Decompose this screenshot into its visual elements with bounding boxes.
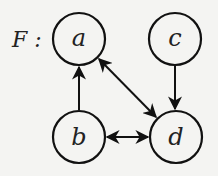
node-a: a bbox=[53, 13, 105, 65]
node-d-label: d bbox=[168, 123, 183, 151]
graph-label: F : bbox=[11, 27, 42, 52]
node-a-label: a bbox=[72, 24, 86, 52]
edge-a-d-bidirectional bbox=[99, 59, 156, 117]
node-c: c bbox=[149, 13, 201, 65]
graph-diagram: F : a c b d bbox=[0, 0, 218, 176]
node-c-label: c bbox=[168, 24, 181, 52]
node-b: b bbox=[53, 111, 105, 163]
node-b-label: b bbox=[71, 123, 86, 151]
node-d: d bbox=[150, 111, 202, 163]
